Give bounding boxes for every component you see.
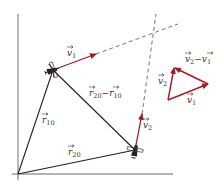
label-triangle-v2-minus-v1: v2−v1 (185, 54, 211, 66)
label-v2-plane: v2 (143, 120, 152, 132)
trajectory-extensions (96, 14, 178, 114)
triangle-v2-minus-v1-arrow (175, 68, 208, 84)
label-triangle-v2: v2 (158, 76, 167, 88)
label-r20: r20 (68, 147, 81, 159)
v2-arrow (135, 114, 142, 150)
v2-dashed-extension (142, 14, 156, 114)
label-r10: r10 (42, 115, 55, 127)
label-v1-plane: v1 (67, 48, 76, 60)
r20-minus-r10-vector (53, 70, 135, 150)
triangle-v2-arrow (168, 68, 174, 100)
velocity-vectors (53, 54, 142, 150)
relative-velocity-diagram: v1 r10 r20 r20−r10 v2 v1 v2 v2−v1 (0, 0, 222, 183)
v1-dashed-extension (96, 24, 178, 54)
label-r20-minus-r10: r20−r10 (89, 88, 122, 100)
airplane-1-icon (43, 60, 62, 80)
label-triangle-v1: v1 (187, 95, 196, 107)
